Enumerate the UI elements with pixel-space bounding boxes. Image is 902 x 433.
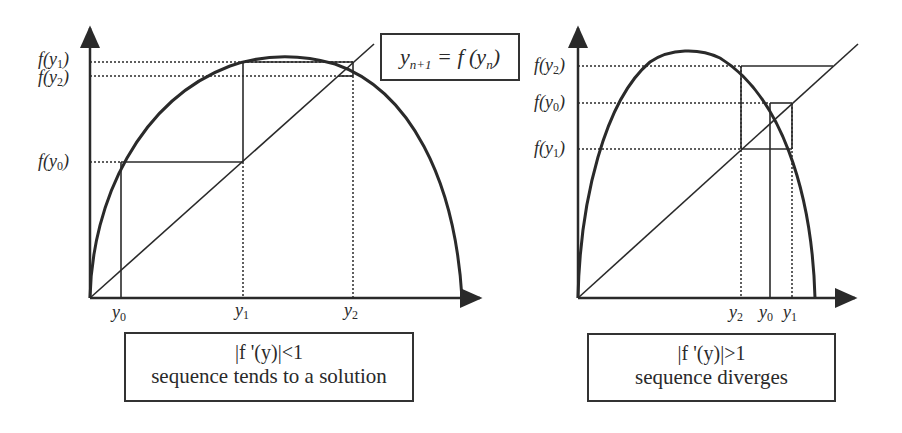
formula-close: ) bbox=[493, 44, 500, 69]
formula-equals: = f (y bbox=[432, 44, 487, 69]
left-cobweb-path bbox=[121, 62, 353, 298]
left-label-y2: y2 bbox=[344, 301, 358, 321]
left-function-curve bbox=[90, 57, 462, 298]
right-label-f-y0: f(y0) bbox=[534, 93, 565, 113]
right-label-y1: y1 bbox=[783, 303, 797, 323]
right-cobweb-path bbox=[741, 66, 833, 298]
right-label-y0: y0 bbox=[759, 303, 773, 323]
recurrence-formula-box: yn+1 = f (yn) bbox=[380, 33, 520, 81]
left-caption-condition: |f '(y)|<1 bbox=[126, 340, 412, 364]
right-caption-box: |f '(y)|>1 sequence diverges bbox=[587, 333, 836, 402]
right-label-y2: y2 bbox=[729, 303, 743, 323]
formula-lhs: y bbox=[400, 44, 410, 69]
right-function-curve bbox=[578, 51, 815, 298]
right-label-f-y1: f(y1) bbox=[534, 139, 565, 159]
right-identity-line bbox=[578, 44, 858, 298]
right-label-f-y2: f(y2) bbox=[534, 56, 565, 76]
left-label-y0: y0 bbox=[112, 303, 126, 323]
right-divergent-plot bbox=[578, 28, 858, 298]
right-caption-condition: |f '(y)|>1 bbox=[589, 341, 834, 365]
right-dotted-guides bbox=[578, 66, 792, 298]
right-caption-description: sequence diverges bbox=[589, 365, 834, 389]
formula-lhs-subscript: n+1 bbox=[410, 57, 432, 72]
left-label-f-y0: f(y0) bbox=[38, 152, 69, 172]
left-identity-line bbox=[90, 44, 374, 298]
left-caption-box: |f '(y)|<1 sequence tends to a solution bbox=[124, 332, 414, 402]
left-label-y1: y1 bbox=[235, 301, 249, 321]
left-label-f-y2: f(y2) bbox=[38, 68, 69, 88]
left-caption-description: sequence tends to a solution bbox=[126, 364, 412, 388]
